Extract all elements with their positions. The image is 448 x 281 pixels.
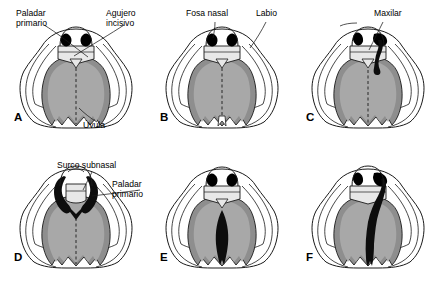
- label-surco-subnasal-d: Surco subnasal: [57, 161, 116, 171]
- panel-c-illustration: [312, 27, 424, 128]
- panel-letter-f: F: [306, 251, 313, 263]
- label-labio-b: Labio: [256, 9, 277, 19]
- panel-e-illustration: [166, 167, 278, 268]
- anatomy-illustration: [0, 0, 448, 281]
- panel-letter-e: E: [160, 251, 168, 263]
- panel-letter-b: B: [160, 111, 168, 123]
- label-uvula-a: Úvula: [83, 121, 105, 131]
- panel-a-illustration: [20, 27, 132, 128]
- label-maxilar-c: Maxilar: [374, 9, 402, 19]
- label-fosa-nasal-b: Fosa nasal: [186, 9, 228, 19]
- panel-letter-c: C: [306, 111, 314, 123]
- panel-f-illustration: [312, 166, 424, 268]
- cleft-palate-figure: Paladar primario Agujero incisivo Úvula …: [0, 0, 448, 281]
- label-paladar-primario-a: Paladar primario: [16, 9, 47, 28]
- panel-letter-d: D: [14, 251, 22, 263]
- panel-letter-a: A: [14, 111, 22, 123]
- label-paladar-primario-d: Paladar primario: [112, 180, 143, 199]
- label-agujero-incisivo-a: Agujero incisivo: [106, 9, 136, 28]
- panel-b-illustration: [166, 27, 278, 128]
